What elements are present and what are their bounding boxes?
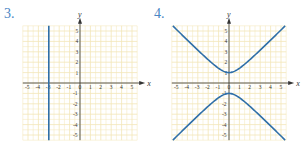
chart3-x-tick-label: 1 — [89, 84, 92, 90]
chart3-x-tick-label: -5 — [25, 84, 30, 90]
chart4-x-tick-label: 5 — [280, 84, 283, 90]
chart4-x-tick-label: 3 — [259, 84, 262, 90]
chart3-x-tick-label: 3 — [110, 84, 113, 90]
chart3-x-tick-label: -4 — [35, 84, 40, 90]
chart4-x-label: x — [295, 79, 300, 88]
chart3-x-tick-label: 0 — [79, 84, 82, 90]
chart4-x-tick-label: 1 — [238, 84, 241, 90]
chart3-y-tick-label: -3 — [73, 111, 78, 117]
chart3-x-tick-label: 4 — [120, 84, 123, 90]
chart3-x-label: x — [146, 79, 151, 88]
chart4-y-tick-label: 3 — [225, 49, 228, 55]
chart3-y-label: y — [77, 10, 82, 19]
chart3-x-arrow-icon — [139, 81, 145, 85]
chart3-y-tick-label: 5 — [76, 28, 79, 34]
graphs-canvas: xy-5-4-3-2-1012345-5-4-3-2-112345xy-5-4-… — [0, 0, 302, 148]
chart3-y-tick-label: 2 — [76, 59, 79, 65]
chart3-y-tick-label: 3 — [76, 49, 79, 55]
chart4-x-tick-label: -5 — [174, 84, 179, 90]
chart4-y-tick-label: -4 — [222, 122, 227, 128]
chart3-y-tick-label: -5 — [73, 132, 78, 138]
chart3-y-tick-label: -1 — [73, 90, 78, 96]
chart3-y-tick-label: 1 — [76, 70, 79, 76]
chart3-y-tick-label: -2 — [73, 101, 78, 107]
chart3-x-tick-label: -1 — [67, 84, 72, 90]
chart4-y-tick-label: -3 — [222, 111, 227, 117]
chart4-y-label: y — [226, 10, 231, 19]
chart4-x-tick-label: -2 — [205, 84, 210, 90]
chart4-y-tick-label: 4 — [225, 38, 228, 44]
chart3-x-tick-label: -2 — [56, 84, 61, 90]
chart4-x-tick-label: -1 — [216, 84, 221, 90]
chart4-y-tick-label: 2 — [225, 59, 228, 65]
chart3-y-tick-label: -4 — [73, 122, 78, 128]
chart4-y-tick-label: -5 — [222, 132, 227, 138]
chart4-x-arrow-icon — [288, 81, 294, 85]
chart4-y-tick-label: 5 — [225, 28, 228, 34]
chart4-x-tick-label: 0 — [228, 84, 231, 90]
chart4-y-tick-label: -2 — [222, 101, 227, 107]
chart4-x-tick-label: -3 — [195, 84, 200, 90]
chart3-y-tick-label: 4 — [76, 38, 79, 44]
chart4-x-tick-label: -4 — [184, 84, 189, 90]
chart3-x-tick-label: 2 — [99, 84, 102, 90]
chart3-x-tick-label: 5 — [131, 84, 134, 90]
chart4-x-tick-label: 4 — [269, 84, 272, 90]
chart4-x-tick-label: 2 — [248, 84, 251, 90]
